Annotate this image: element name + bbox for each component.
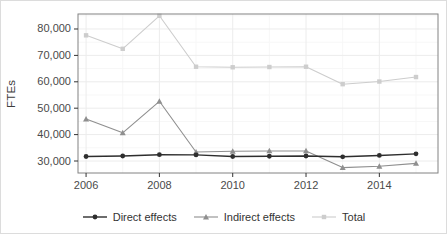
y-tick-label: 60,000: [37, 75, 71, 87]
point-direct-effects: [414, 151, 419, 156]
x-tick-label: 2006: [74, 179, 98, 191]
point-indirect-effects: [83, 116, 89, 122]
point-total: [121, 47, 125, 51]
point-total: [267, 65, 271, 69]
point-total: [84, 33, 88, 37]
legend-item-indirect-effects: Indirect effects: [193, 211, 295, 223]
legend-item-total: Total: [311, 211, 365, 223]
y-tick-label: 40,000: [37, 128, 71, 140]
point-direct-effects: [230, 154, 235, 159]
point-total: [340, 82, 344, 86]
point-total: [304, 65, 308, 69]
fte-line-chart-figure: 30,00040,00050,00060,00070,00080,0002006…: [0, 0, 447, 234]
legend-item-direct-effects: Direct effects: [82, 211, 177, 223]
plot-area: 30,00040,00050,00060,00070,00080,0002006…: [1, 1, 447, 201]
point-total: [231, 65, 235, 69]
legend-key-square-icon: [311, 211, 337, 223]
panel-border: [78, 14, 438, 173]
legend-label-indirect-effects: Indirect effects: [224, 211, 295, 223]
point-direct-effects: [157, 152, 162, 157]
legend-key-circle-icon: [82, 211, 108, 223]
y-tick-label: 50,000: [37, 102, 71, 114]
y-axis-title: FTEs: [3, 14, 19, 173]
point-direct-effects: [340, 154, 345, 159]
point-direct-effects: [84, 154, 89, 159]
point-direct-effects: [304, 154, 309, 159]
legend-key-triangle-icon: [193, 211, 219, 223]
point-total: [414, 75, 418, 79]
point-direct-effects: [267, 154, 272, 159]
x-tick-label: 2010: [220, 179, 244, 191]
legend: Direct effectsIndirect effectsTotal: [1, 206, 446, 228]
legend-label-total: Total: [342, 211, 365, 223]
x-tick-label: 2014: [367, 179, 391, 191]
point-direct-effects: [377, 153, 382, 158]
point-direct-effects: [194, 153, 199, 158]
y-tick-label: 30,000: [37, 155, 71, 167]
series-line-direct-effects: [86, 154, 416, 157]
point-total: [194, 65, 198, 69]
point-direct-effects: [120, 154, 125, 159]
point-total: [377, 79, 381, 83]
x-tick-label: 2008: [147, 179, 171, 191]
y-tick-label: 80,000: [37, 22, 71, 34]
legend-label-direct-effects: Direct effects: [113, 211, 177, 223]
point-indirect-effects: [156, 98, 162, 104]
x-tick-label: 2012: [294, 179, 318, 191]
series-line-total: [86, 16, 416, 84]
y-tick-label: 70,000: [37, 49, 71, 61]
